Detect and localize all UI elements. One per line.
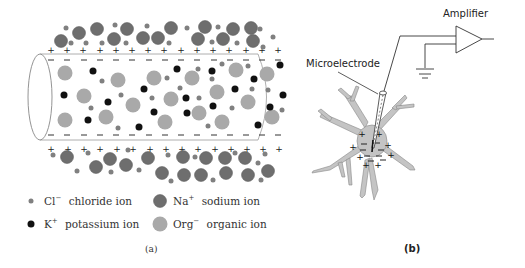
microelectrode-label: Microelectrode [306, 58, 380, 69]
legend-organic-symbol: Org [173, 218, 193, 230]
ground-wire [425, 44, 456, 68]
svg-text:+: + [79, 45, 87, 55]
legend-potassium-label: potassium ion [65, 218, 139, 230]
svg-text:+: + [349, 142, 357, 152]
svg-text:+: + [242, 45, 250, 55]
legend-chloride-symbol: Cl [44, 195, 55, 207]
legend-potassium: K+ potassium ion [44, 217, 139, 230]
legend-organic: Org− organic ion [173, 217, 267, 230]
amplifier-icon[interactable] [456, 26, 494, 53]
panel-b-caption: (b) [404, 243, 420, 254]
svg-text:+: + [47, 144, 55, 154]
legend-organic-label: organic ion [207, 218, 267, 230]
legend-potassium-symbol: K [44, 218, 52, 230]
potassium-ion-swatch [28, 221, 35, 228]
svg-text:+: + [225, 45, 233, 55]
svg-text:+: + [211, 144, 219, 154]
ground-icon [416, 69, 434, 78]
svg-text:+: + [177, 45, 185, 55]
svg-text:+: + [162, 144, 170, 154]
svg-text:+: + [209, 45, 217, 55]
legend-potassium-charge: + [52, 217, 58, 225]
amplifier-label: Amplifier [443, 8, 488, 19]
svg-text:+: + [47, 45, 55, 55]
panel-a-caption: (a) [145, 244, 157, 254]
svg-text:+: + [193, 45, 201, 55]
outside-positive-charges-top: ++++ ++++ ++++ +++ [47, 45, 282, 55]
svg-text:+: + [113, 144, 121, 154]
svg-text:+: + [358, 129, 366, 139]
svg-text:+: + [160, 45, 168, 55]
cylinder-end-left [28, 54, 52, 140]
legend-chloride-charge: − [55, 194, 61, 202]
svg-text:+: + [274, 45, 282, 55]
legend-sodium-charge: + [188, 194, 194, 202]
svg-text:+: + [194, 144, 202, 154]
svg-text:+: + [275, 144, 283, 154]
legend-sodium-symbol: Na [173, 195, 188, 207]
legend-organic-charge: − [193, 217, 199, 225]
legend-chloride-label: chloride ion [69, 195, 132, 207]
svg-text:+: + [96, 45, 104, 55]
legend-sodium-label: sodium ion [202, 195, 260, 207]
svg-text:+: + [112, 45, 120, 55]
organic-ion-swatch [153, 217, 168, 232]
svg-text:+: + [129, 144, 137, 154]
svg-text:+: + [374, 160, 382, 170]
svg-text:+: + [384, 140, 392, 150]
svg-text:+: + [96, 144, 104, 154]
legend-sodium: Na+ sodium ion [173, 194, 260, 207]
svg-text:+: + [128, 45, 136, 55]
chloride-ion-swatch [29, 199, 34, 204]
inside-ions [58, 62, 287, 131]
svg-text:+: + [387, 150, 395, 160]
sodium-ion-swatch [154, 195, 167, 208]
neuron-cell [312, 86, 415, 200]
svg-text:+: + [144, 45, 152, 55]
legend-chloride: Cl− chloride ion [44, 194, 132, 207]
